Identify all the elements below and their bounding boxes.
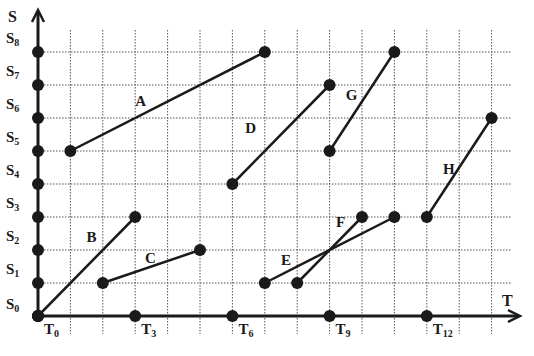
y-tick-dot xyxy=(32,277,44,289)
y-tick-dot xyxy=(32,46,44,58)
y-tick-label: S8 xyxy=(6,30,19,48)
y-tick-dot xyxy=(32,145,44,157)
segment-start-dot xyxy=(291,277,303,289)
y-tick-label: S0 xyxy=(6,296,19,314)
y-tick-label: S7 xyxy=(6,63,19,81)
segment-label: B xyxy=(87,229,97,245)
grid xyxy=(38,30,512,334)
y-tick-label: S2 xyxy=(6,228,19,246)
segment-start-dot xyxy=(259,277,271,289)
timeline-diagram: STS0S1S2S3S4S5S6S7S8T0T3T6T9T12ABCDEFGH xyxy=(0,0,534,356)
segment-b xyxy=(32,211,141,322)
segment-h xyxy=(421,112,498,223)
y-tick-dot xyxy=(32,79,44,91)
y-tick-dot xyxy=(32,178,44,190)
y-tick-dot xyxy=(32,244,44,256)
x-tick-label: T3 xyxy=(141,321,156,339)
segment-start-dot xyxy=(324,145,336,157)
segment-start-dot xyxy=(64,145,76,157)
segment-end-dot xyxy=(388,211,400,223)
segment-label: D xyxy=(245,120,256,136)
y-tick-dot xyxy=(32,211,44,223)
y-tick-label: S3 xyxy=(6,195,19,213)
labels: STS0S1S2S3S4S5S6S7S8T0T3T6T9T12ABCDEFGH xyxy=(6,8,513,339)
x-tick-dot xyxy=(324,310,336,322)
segment-d xyxy=(226,79,335,190)
x-axis-label: T xyxy=(502,292,513,309)
y-tick-label: S1 xyxy=(6,261,19,279)
segment-label: G xyxy=(346,87,358,103)
x-tick-dot xyxy=(226,310,238,322)
segment-label: C xyxy=(145,250,156,266)
x-tick-dot xyxy=(421,310,433,322)
segment-end-dot xyxy=(324,79,336,91)
segment-start-dot xyxy=(226,178,238,190)
y-tick-label: S5 xyxy=(6,129,19,147)
segment-start-dot xyxy=(421,211,433,223)
y-axis-label: S xyxy=(8,8,17,25)
y-tick-label: S4 xyxy=(6,162,19,180)
segment-end-dot xyxy=(388,46,400,58)
y-tick-label: S6 xyxy=(6,96,19,114)
x-tick-dot xyxy=(129,310,141,322)
x-tick-label: T6 xyxy=(238,321,253,339)
segment-a xyxy=(64,46,270,157)
segment-start-dot xyxy=(97,277,109,289)
segment-end-dot xyxy=(356,211,368,223)
segment-end-dot xyxy=(486,112,498,124)
x-tick-label: T9 xyxy=(336,321,351,339)
segment-g xyxy=(324,46,401,157)
segment-label: E xyxy=(281,252,291,268)
x-tick-label: T0 xyxy=(44,321,59,339)
y-tick-dot xyxy=(32,112,44,124)
segment-label: F xyxy=(336,214,345,230)
segment-label: H xyxy=(443,161,455,177)
segment-end-dot xyxy=(129,211,141,223)
segment-start-dot xyxy=(32,310,44,322)
segment-label: A xyxy=(135,93,146,109)
segment-end-dot xyxy=(194,244,206,256)
segment-end-dot xyxy=(259,46,271,58)
x-tick-label: T12 xyxy=(433,321,453,339)
